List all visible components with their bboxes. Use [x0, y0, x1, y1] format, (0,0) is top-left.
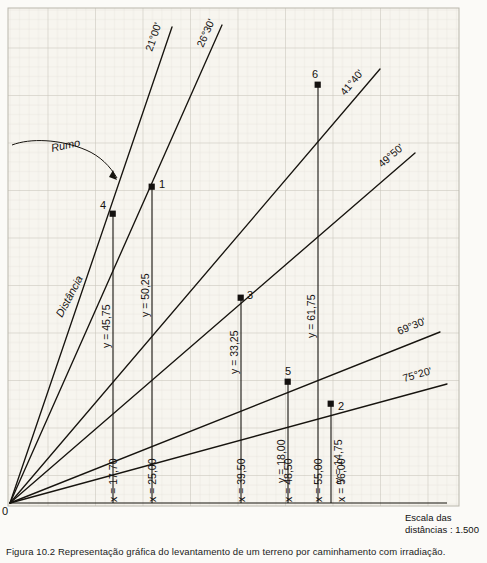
point-id-2: 2: [338, 400, 344, 412]
x-label-point-4: x = 17,70: [107, 458, 119, 502]
scale-note: Escala das distâncias : 1.500: [405, 512, 479, 536]
graph-paper-grid: [8, 8, 459, 506]
y-label-point-4: y = 45,75: [100, 304, 112, 348]
point-id-3: 3: [247, 289, 253, 301]
scale-note-line2: distâncias : 1.500: [405, 524, 479, 536]
point-marker-3: [238, 295, 244, 301]
irradiation-survey-diagram: 21°00' 26°30' 41°40' 49°50' 69°30' 75°20…: [0, 0, 487, 563]
x-label-point-1: x = 25,00: [146, 458, 158, 502]
point-marker-5: [285, 379, 291, 385]
y-label-point-1: y = 50,25: [139, 273, 151, 317]
point-marker-6: [315, 82, 321, 88]
scale-note-line1: Escala das: [405, 512, 479, 524]
point-id-4: 4: [100, 199, 106, 211]
point-marker-2: [328, 401, 334, 407]
point-marker-4: [110, 211, 116, 217]
origin-label: 0: [2, 505, 8, 517]
figure-caption: Figura 10.2 Representação gráfica do lev…: [6, 546, 445, 557]
x-label-point-6: x = 55,00: [312, 458, 324, 502]
point-id-5: 5: [285, 365, 291, 377]
x-label-point-2: x = 56,00: [335, 458, 347, 502]
y-label-point-3: y = 33,25: [228, 330, 240, 374]
x-label-point-3: x = 39,50: [235, 458, 247, 502]
x-label-point-5: x = 48,50: [282, 458, 294, 502]
point-id-6: 6: [312, 68, 318, 80]
point-marker-1: [149, 184, 155, 190]
y-label-point-6: y = 61,75: [305, 294, 317, 338]
point-id-1: 1: [159, 178, 165, 190]
